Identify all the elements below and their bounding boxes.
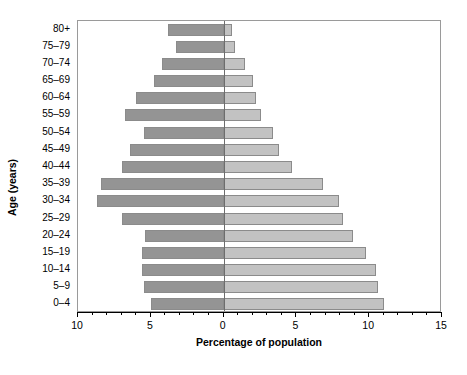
y-axis-tick-labels: 0–45–910–1415–1920–2425–2930–3435–3940–4… — [24, 20, 74, 312]
bar-right-40-44 — [224, 161, 292, 173]
x-axis-ticks — [77, 312, 441, 318]
x-tick-minor — [412, 312, 413, 315]
bar-right-20-24 — [224, 230, 354, 242]
bar-left-45-49 — [130, 144, 223, 156]
bar-row — [78, 144, 440, 156]
x-tick-minor — [164, 312, 165, 315]
bar-left-70-74 — [162, 58, 223, 70]
x-tick-minor — [179, 312, 180, 315]
y-tick-label: 60–64 — [42, 92, 70, 102]
x-tick-major — [223, 312, 224, 317]
bar-row — [78, 92, 440, 104]
y-tick-label: 15–19 — [42, 247, 70, 257]
y-tick-label: 80+ — [53, 24, 70, 34]
x-tick-minor — [208, 312, 209, 315]
bar-right-15-19 — [224, 247, 367, 259]
bar-right-65-69 — [224, 75, 253, 87]
x-tick-label: 10 — [71, 320, 83, 331]
x-tick-label: 5 — [292, 320, 298, 331]
bar-row — [78, 230, 440, 242]
bar-right-70-74 — [224, 58, 246, 70]
bar-left-10-14 — [142, 264, 224, 276]
x-axis-tick-labels: 105051015 — [77, 320, 441, 334]
x-tick-minor — [252, 312, 253, 315]
y-tick-label: 10–14 — [42, 264, 70, 274]
y-tick-label: 55–59 — [42, 109, 70, 119]
x-tick-minor — [325, 312, 326, 315]
x-tick-major — [295, 312, 296, 317]
y-tick-label: 45–49 — [42, 144, 70, 154]
plot-area — [77, 20, 441, 312]
bar-left-25-29 — [122, 213, 224, 225]
x-tick-minor — [383, 312, 384, 315]
y-tick-label: 40–44 — [42, 161, 70, 171]
bar-left-40-44 — [122, 161, 224, 173]
bar-right-35-39 — [224, 178, 323, 190]
bar-row — [78, 195, 440, 207]
population-pyramid-chart: Age (years) 0–45–910–1415–1920–2425–2930… — [0, 0, 467, 375]
y-axis-title: Age (years) — [0, 0, 24, 375]
bar-row — [78, 41, 440, 53]
x-tick-major — [150, 312, 151, 317]
x-tick-minor — [426, 312, 427, 315]
x-tick-minor — [106, 312, 107, 315]
bar-row — [78, 264, 440, 276]
bar-left-30-34 — [97, 195, 224, 207]
bar-right-50-54 — [224, 127, 274, 139]
y-tick-label: 30–34 — [42, 195, 70, 205]
bar-row — [78, 161, 440, 173]
x-tick-label: 5 — [147, 320, 153, 331]
x-tick-minor — [92, 312, 93, 315]
bar-left-55-59 — [125, 109, 224, 121]
x-axis-title: Percentage of population — [77, 336, 441, 348]
zero-axis-line — [224, 21, 225, 311]
x-tick-minor — [281, 312, 282, 315]
bar-row — [78, 109, 440, 121]
y-tick-label: 0–4 — [53, 298, 70, 308]
bar-row — [78, 247, 440, 259]
bar-right-25-29 — [224, 213, 343, 225]
x-tick-label: 0 — [220, 320, 226, 331]
bar-left-15-19 — [142, 247, 224, 259]
bar-left-65-69 — [154, 75, 224, 87]
y-tick-label: 70–74 — [42, 58, 70, 68]
bar-row — [78, 24, 440, 36]
x-tick-label: 10 — [362, 320, 374, 331]
bar-left-60-64 — [136, 92, 223, 104]
x-tick-major — [77, 312, 78, 317]
bar-row — [78, 58, 440, 70]
x-tick-label: 15 — [435, 320, 447, 331]
x-tick-minor — [397, 312, 398, 315]
y-tick-label: 65–69 — [42, 75, 70, 85]
bar-left-20-24 — [145, 230, 224, 242]
x-tick-minor — [193, 312, 194, 315]
bars-layer — [78, 21, 440, 311]
bar-row — [78, 75, 440, 87]
bar-left-80+ — [168, 24, 223, 36]
x-tick-minor — [339, 312, 340, 315]
x-tick-major — [441, 312, 442, 317]
x-tick-minor — [237, 312, 238, 315]
bar-left-0-4 — [151, 298, 224, 310]
bar-row — [78, 213, 440, 225]
bar-right-55-59 — [224, 109, 262, 121]
bar-left-5-9 — [144, 281, 224, 293]
bar-right-45-49 — [224, 144, 279, 156]
y-tick-label: 35–39 — [42, 178, 70, 188]
x-tick-minor — [135, 312, 136, 315]
bar-left-75-79 — [176, 41, 224, 53]
y-tick-label: 75–79 — [42, 41, 70, 51]
y-tick-label: 5–9 — [53, 281, 70, 291]
bar-left-35-39 — [101, 178, 223, 190]
bar-right-0-4 — [224, 298, 384, 310]
y-tick-label: 50–54 — [42, 127, 70, 137]
x-tick-minor — [266, 312, 267, 315]
bar-row — [78, 281, 440, 293]
x-tick-major — [368, 312, 369, 317]
x-tick-minor — [354, 312, 355, 315]
bar-right-10-14 — [224, 264, 377, 276]
x-tick-minor — [310, 312, 311, 315]
bar-right-75-79 — [224, 41, 236, 53]
bar-row — [78, 298, 440, 310]
bar-right-30-34 — [224, 195, 339, 207]
